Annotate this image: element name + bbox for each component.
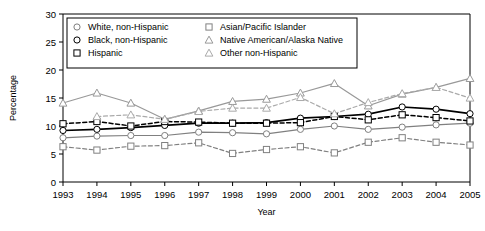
data-point-circle (433, 122, 439, 128)
data-point-circle (60, 135, 66, 141)
data-point-square (467, 142, 473, 148)
data-point-circle (399, 124, 405, 130)
data-point-circle (60, 127, 66, 133)
legend-item-3[interactable]: Asian/Pacific Islander (206, 22, 306, 32)
x-axis: 1993199419951996199719981999200020012002… (52, 182, 480, 200)
data-point-triangle (466, 75, 474, 82)
data-point-square (365, 139, 371, 145)
data-point-triangle (364, 99, 372, 106)
series-5 (93, 83, 474, 122)
data-point-circle (94, 126, 100, 132)
x-tick-label: 2002 (358, 189, 379, 200)
y-tick-label: 0 (51, 177, 56, 188)
x-tick-label: 1999 (256, 189, 277, 200)
y-tick-label: 25 (45, 37, 56, 48)
data-point-circle (365, 126, 371, 132)
data-point-circle (74, 37, 80, 43)
data-point-circle (196, 129, 202, 135)
legend-label: Hispanic (88, 48, 123, 58)
legend-item-0[interactable]: White, non-Hispanic (74, 22, 169, 32)
data-point-square (206, 24, 212, 30)
data-point-circle (263, 131, 269, 137)
x-tick-label: 2003 (392, 189, 413, 200)
legend-label: White, non-Hispanic (88, 22, 169, 32)
data-point-square (297, 120, 303, 126)
data-point-square (297, 144, 303, 150)
x-tick-label: 1994 (86, 189, 107, 200)
data-point-square (196, 119, 202, 125)
data-point-square (60, 121, 66, 127)
legend-label: Native American/Alaska Native (220, 35, 343, 45)
x-tick-label: 1997 (188, 189, 209, 200)
data-point-circle (74, 24, 80, 30)
data-point-circle (128, 132, 134, 138)
data-point-square (196, 140, 202, 146)
data-point-circle (297, 126, 303, 132)
data-point-square (94, 147, 100, 153)
data-point-triangle (127, 111, 135, 118)
data-point-square (263, 146, 269, 152)
line-chart: 051015202530Percentage199319941995199619… (0, 0, 485, 231)
y-tick-label: 5 (51, 149, 56, 160)
data-point-square (162, 143, 168, 149)
x-tick-label: 1996 (154, 189, 175, 200)
y-axis-title: Percentage (8, 75, 18, 121)
data-point-circle (331, 123, 337, 129)
data-point-triangle (93, 89, 101, 96)
data-point-square (263, 120, 269, 126)
data-point-circle (433, 106, 439, 112)
data-point-square (467, 118, 473, 124)
legend-item-5[interactable]: Other non-Hispanic (205, 48, 298, 58)
x-tick-label: 2004 (426, 189, 447, 200)
data-point-square (433, 115, 439, 121)
x-tick-label: 2005 (459, 189, 480, 200)
legend-label: Asian/Pacific Islander (220, 22, 306, 32)
legend-label: Black, non-Hispanic (88, 35, 168, 45)
x-tick-label: 1993 (52, 189, 73, 200)
data-point-triangle (330, 80, 338, 87)
data-point-square (331, 150, 337, 156)
y-axis: 051015202530 (45, 9, 63, 188)
legend-item-4[interactable]: Native American/Alaska Native (205, 35, 343, 45)
data-point-square (128, 143, 134, 149)
x-tick-label: 1998 (222, 189, 243, 200)
legend-item-1[interactable]: Black, non-Hispanic (74, 35, 168, 45)
x-tick-label: 2000 (290, 189, 311, 200)
x-axis-title: Year (257, 207, 275, 217)
x-tick-label: 1995 (120, 189, 141, 200)
y-tick-label: 30 (45, 9, 56, 20)
data-point-circle (399, 104, 405, 110)
legend: White, non-HispanicBlack, non-HispanicHi… (67, 18, 357, 68)
data-point-square (74, 50, 80, 56)
data-point-square (229, 150, 235, 156)
data-point-square (60, 144, 66, 150)
data-point-circle (467, 111, 473, 117)
data-point-square (229, 120, 235, 126)
data-point-circle (94, 133, 100, 139)
data-point-square (128, 123, 134, 129)
y-tick-label: 10 (45, 121, 56, 132)
data-point-square (365, 117, 371, 123)
legend-label: Other non-Hispanic (220, 48, 298, 58)
y-tick-label: 15 (45, 93, 56, 104)
series-3 (60, 135, 473, 157)
data-point-circle (229, 130, 235, 136)
y-tick-label: 20 (45, 65, 56, 76)
chart-figure: 051015202530Percentage199319941995199619… (0, 0, 485, 231)
data-point-circle (162, 132, 168, 138)
data-point-square (433, 139, 439, 145)
data-point-square (399, 135, 405, 141)
x-tick-label: 2001 (324, 189, 345, 200)
data-point-triangle (466, 94, 474, 101)
data-point-square (399, 112, 405, 118)
